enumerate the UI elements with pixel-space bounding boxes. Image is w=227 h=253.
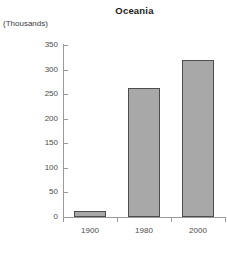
y-tick-mark <box>63 192 68 193</box>
chart-title: Oceania <box>0 5 227 16</box>
bar-chart: Oceania (Thousands) 05010015020025030035… <box>0 0 227 253</box>
y-tick-label: 50 <box>18 188 58 196</box>
y-tick-label: 350 <box>18 41 58 49</box>
x-tick-label: 2000 <box>189 226 207 235</box>
y-tick-label: 300 <box>18 66 58 74</box>
y-tick-mark <box>63 143 68 144</box>
bar <box>74 211 106 217</box>
x-tick-mark <box>225 217 226 222</box>
y-tick-label: 250 <box>18 90 58 98</box>
y-tick-label: 0 <box>18 213 58 221</box>
y-tick-label: 100 <box>18 164 58 172</box>
x-tick-mark <box>63 217 64 222</box>
bar <box>128 88 160 217</box>
bar <box>182 60 214 217</box>
x-tick-mark <box>117 217 118 222</box>
x-tick-label: 1980 <box>135 226 153 235</box>
x-axis-line <box>63 217 225 218</box>
y-tick-label: 200 <box>18 115 58 123</box>
y-tick-mark <box>63 94 68 95</box>
y-tick-mark <box>63 45 68 46</box>
x-tick-label: 1900 <box>81 226 99 235</box>
y-tick-mark <box>63 70 68 71</box>
y-tick-label: 150 <box>18 139 58 147</box>
y-tick-mark <box>63 119 68 120</box>
y-axis-unit-label: (Thousands) <box>3 19 48 28</box>
y-tick-mark <box>63 168 68 169</box>
x-tick-mark <box>171 217 172 222</box>
